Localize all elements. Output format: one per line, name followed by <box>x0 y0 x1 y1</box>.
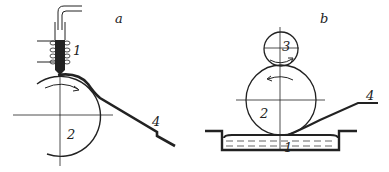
strip-4-b <box>288 103 378 135</box>
label-roll-2-a: 2 <box>67 128 75 141</box>
diagram-drawing <box>0 0 389 172</box>
label-roll-2-b: 2 <box>260 107 268 120</box>
label-bath-1: 1 <box>284 141 292 154</box>
strip-4-a <box>58 74 175 146</box>
panel-b-label: b <box>320 12 328 25</box>
tray <box>205 131 357 150</box>
panel-a-label: a <box>115 12 123 25</box>
panel-b-drawing <box>205 27 378 150</box>
label-strip-4-a: 4 <box>152 115 160 128</box>
panel-a-drawing <box>13 6 175 166</box>
label-roll-3: 3 <box>282 40 290 53</box>
label-strip-4-b: 4 <box>366 89 374 102</box>
label-nozzle-1: 1 <box>73 44 81 57</box>
diagram: a 1 2 4 b 3 2 4 1 <box>0 0 389 172</box>
roll-3-b <box>264 32 298 66</box>
